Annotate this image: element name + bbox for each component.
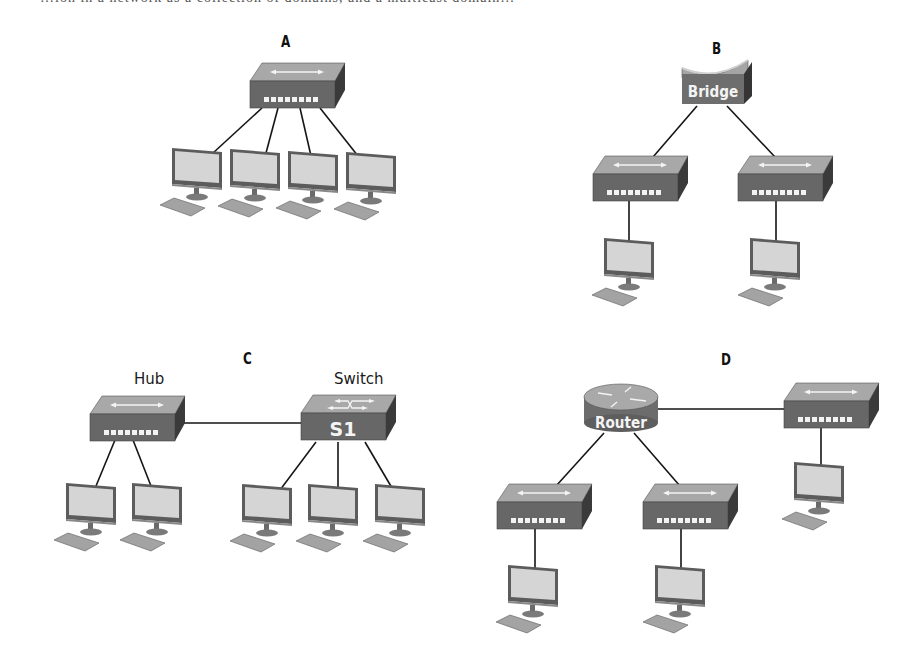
switch-badge: S1 — [330, 418, 357, 440]
pc-icon[interactable] — [496, 565, 558, 633]
pc-icon[interactable] — [738, 238, 800, 306]
hub-icon[interactable] — [497, 484, 592, 529]
hub-icon[interactable] — [643, 484, 738, 529]
panel-b: Bridge — [592, 60, 833, 306]
pc-icon[interactable] — [120, 483, 182, 551]
hub-icon[interactable] — [90, 396, 185, 441]
pc-icon[interactable] — [160, 148, 222, 216]
router-label: Router — [595, 413, 647, 431]
pc-icon[interactable] — [54, 483, 116, 551]
pc-icon[interactable] — [363, 484, 425, 552]
pc-icon[interactable] — [643, 565, 705, 633]
hub-icon[interactable] — [738, 156, 833, 201]
pc-icon[interactable] — [782, 462, 844, 530]
panel-a — [160, 63, 396, 220]
pc-icon[interactable] — [334, 152, 396, 220]
hub-label: Hub — [134, 370, 164, 388]
pc-icon[interactable] — [296, 484, 358, 552]
clipped-caption: …ion in a network as a collection of dom… — [0, 0, 911, 6]
hub-icon[interactable] — [593, 156, 688, 201]
links-a — [213, 108, 358, 156]
panel-label-d: D — [721, 351, 731, 369]
diagram-canvas: Bridge — [0, 0, 911, 670]
router-icon[interactable]: Router — [584, 384, 658, 432]
hub-icon[interactable] — [250, 63, 345, 108]
bridge-label: Bridge — [688, 82, 738, 100]
switch-label: Switch — [334, 370, 384, 388]
network-topology-diagram: …ion in a network as a collection of dom… — [0, 0, 911, 670]
panel-label-b: B — [712, 40, 721, 58]
bridge-icon[interactable]: Bridge — [682, 60, 752, 104]
switch-icon[interactable]: S1 — [301, 395, 396, 440]
panel-label-a: A — [281, 33, 290, 51]
pc-icon[interactable] — [218, 149, 280, 217]
pc-icon[interactable] — [230, 484, 292, 552]
hub-icon[interactable] — [784, 383, 879, 428]
pc-icon[interactable] — [592, 238, 654, 306]
panel-c: S1 — [54, 395, 425, 552]
panel-d: Router — [496, 383, 879, 633]
panel-label-c: C — [243, 350, 252, 368]
pc-icon[interactable] — [276, 151, 338, 219]
